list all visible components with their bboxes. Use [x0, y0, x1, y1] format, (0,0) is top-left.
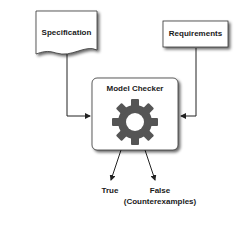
connector-spec-to-checker — [67, 52, 90, 116]
model-checker-label: Model Checker — [92, 84, 178, 94]
connector-req-to-checker — [181, 48, 196, 116]
false-label: False — [130, 186, 190, 196]
specification-label: Specification — [36, 28, 97, 38]
connector-checker-to-false — [145, 150, 155, 180]
false-sublabel: (Counterexamples) — [120, 197, 200, 207]
true-label: True — [90, 186, 130, 196]
requirements-label: Requirements — [163, 29, 228, 39]
gear-icon — [112, 99, 158, 145]
connector-checker-to-true — [111, 150, 121, 180]
